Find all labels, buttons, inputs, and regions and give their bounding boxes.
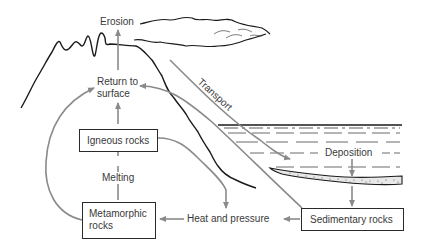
arrow-igneous-to-heat	[158, 138, 226, 208]
cloud-outline	[134, 17, 270, 46]
arrow-transport	[170, 60, 290, 159]
box-metamorphic-rocks: Metamorphic rocks	[82, 202, 156, 239]
box-igneous-label: Igneous rocks	[87, 135, 149, 146]
mountain-outline	[21, 33, 256, 188]
sediment-layer	[270, 168, 402, 185]
cloud-detail	[214, 29, 262, 38]
label-melting: Melting	[102, 172, 134, 184]
label-erosion: Erosion	[100, 16, 134, 28]
label-return-line2: surface	[97, 88, 130, 100]
label-heat-and-pressure: Heat and pressure	[187, 213, 269, 225]
box-metamorphic-line2: rocks	[89, 220, 155, 232]
box-sedimentary-label: Sedimentary rocks	[310, 214, 393, 225]
label-return-to-surface: Return to surface	[97, 76, 138, 100]
box-sedimentary-rocks: Sedimentary rocks	[301, 208, 404, 231]
box-metamorphic-line1: Metamorphic	[89, 208, 155, 220]
label-deposition: Deposition	[325, 147, 372, 159]
label-return-line1: Return to	[97, 76, 138, 88]
box-igneous-rocks: Igneous rocks	[79, 129, 158, 152]
arrow-metamorphic-to-return	[46, 88, 94, 220]
